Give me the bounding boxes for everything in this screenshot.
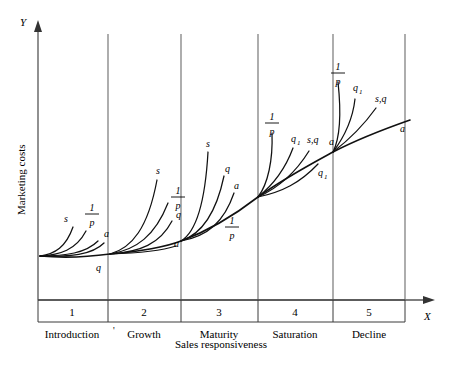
label-stage5-q1-base: q xyxy=(353,82,358,93)
label-stage2-s: s xyxy=(156,165,160,176)
label-stage4-q1-base: q xyxy=(291,133,296,144)
label-stage4-spine-q1-base: q xyxy=(318,167,323,178)
label-stage1-invp-numerator: 1 xyxy=(90,202,95,213)
stage2-curve-s xyxy=(110,180,157,254)
label-stage1-s: s xyxy=(64,213,68,224)
label-stage4-invp-numerator: 1 xyxy=(270,111,275,122)
stage-number-5: 5 xyxy=(366,306,372,318)
label-stage1-invp: 1 p xyxy=(85,202,99,228)
label-stage4-q1-subscript: 1 xyxy=(297,139,301,147)
label-stage4-spine-q1: q 1 xyxy=(318,167,328,181)
stage4-curve-invp xyxy=(258,133,272,197)
stage-name-maturity: Maturity xyxy=(200,328,239,340)
label-stage4-invp: 1 p xyxy=(265,111,279,137)
stage1-curve-s xyxy=(40,227,73,256)
label-stage2-invp: 1 p xyxy=(171,185,185,211)
x-axis-arrowhead xyxy=(423,296,435,304)
y-axis-arrowhead xyxy=(34,20,42,32)
label-stage1-a: a xyxy=(104,228,109,239)
stage5-curve-invp xyxy=(333,82,340,152)
stage-band: 1 2 3 4 5 Introduction Growth Maturity S… xyxy=(38,300,405,340)
y-axis-letter: Y xyxy=(20,16,28,28)
label-stage3-invp-denominator: p xyxy=(229,230,235,241)
label-stage1-q: q xyxy=(96,262,101,273)
stage1-fan xyxy=(40,227,104,256)
label-stage3-a: a xyxy=(234,180,239,191)
stage-dividers xyxy=(108,34,405,300)
stage-name-introduction: Introduction xyxy=(45,328,100,340)
stage-name-decline: Decline xyxy=(352,328,386,340)
stage2-fan xyxy=(110,180,176,254)
label-stage2-a: a xyxy=(174,238,179,249)
chart-svg: Y Marketing costs X Sales responsiveness xyxy=(0,0,450,365)
label-stage2-q: q xyxy=(176,209,181,220)
product-life-cycle-chart: Y Marketing costs X Sales responsiveness xyxy=(0,0,450,365)
stage-tick-mark: ' xyxy=(113,326,115,336)
label-stage5-sq: s,q xyxy=(375,93,386,104)
label-stage4-a: a xyxy=(329,136,334,147)
x-axis-group: X Sales responsiveness xyxy=(38,296,435,350)
label-stage5-invp-numerator: 1 xyxy=(336,61,341,72)
label-stage5-q1-subscript: 1 xyxy=(359,88,363,96)
label-stage3-q: q xyxy=(225,163,230,174)
label-stage4-sq: s,q xyxy=(307,134,318,145)
label-stage5-invp-denominator: p xyxy=(335,76,341,87)
label-stage5-a: a xyxy=(400,123,405,134)
stage-number-2: 2 xyxy=(141,306,147,318)
label-stage2-invp-numerator: 1 xyxy=(176,185,181,196)
x-axis-letter: X xyxy=(423,310,432,322)
stage2-curve-invp xyxy=(110,203,168,254)
y-axis-group: Y Marketing costs xyxy=(15,16,42,300)
spine-curve xyxy=(40,120,410,257)
label-stage4-q1: q 1 xyxy=(291,133,301,147)
stage-number-4: 4 xyxy=(292,306,298,318)
stage-number-3: 3 xyxy=(216,306,222,318)
envelope-spine xyxy=(40,120,410,257)
label-stage5-q1: q 1 xyxy=(353,82,363,96)
stage3-curve-s xyxy=(181,152,208,241)
stage-name-saturation: Saturation xyxy=(272,328,318,340)
label-stage3-s: s xyxy=(206,138,210,149)
label-stage4-invp-denominator: p xyxy=(269,126,275,137)
stage-number-1: 1 xyxy=(69,306,75,318)
stage1-labels: s 1 p a q xyxy=(64,202,109,273)
stage3-labels: s q a 1 p xyxy=(206,138,239,241)
label-stage1-invp-denominator: p xyxy=(89,217,95,228)
label-stage4-spine-q1-subscript: 1 xyxy=(324,173,328,181)
y-axis-title: Marketing costs xyxy=(15,144,27,215)
stage5-labels: 1 p q 1 s,q a xyxy=(331,61,405,134)
label-stage3-invp-numerator: 1 xyxy=(230,215,235,226)
stage-name-growth: Growth xyxy=(127,328,161,340)
